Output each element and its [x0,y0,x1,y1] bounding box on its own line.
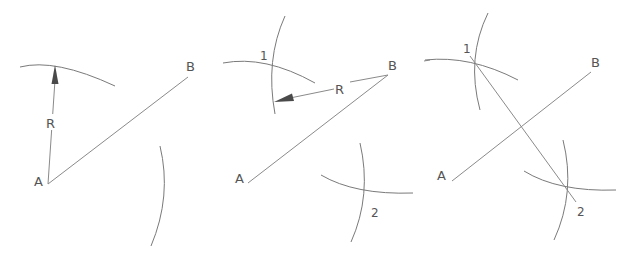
point-b-label: B [186,59,195,74]
panel-step-2: R 1 2 A B [223,16,430,242]
arc-1-from-b [475,13,488,110]
point-a-label: A [34,174,43,189]
radius-label: R [46,116,55,131]
arc-2-from-b [554,140,568,240]
intersection-2-label: 2 [371,206,379,220]
radius-line [48,80,55,184]
radius-arrowhead-icon [274,94,294,103]
panel-step-3: 1 2 A B [425,13,616,240]
segment-ab [48,77,188,184]
intersection-1-label: 1 [260,49,268,63]
intersection-1-label: 1 [463,42,471,56]
point-a-label: A [437,168,446,183]
arc-2-from-a [321,175,413,193]
segment-ab [248,75,388,183]
radius-line-upper [350,75,388,82]
intersection-2-label: 2 [577,205,585,219]
arc-1-from-a [425,59,518,80]
arc-2-from-a [524,171,616,190]
panel-step-1: R A B [20,59,195,246]
point-a-label: A [235,171,244,186]
point-b-label: B [591,55,600,70]
perpendicular-bisector [470,56,576,202]
arc-1-from-a [223,61,315,83]
arc-from-a-top [20,65,115,86]
radius-line-lower [290,89,334,98]
arc-from-a-right [151,146,164,246]
radius-label: R [335,82,344,97]
arc-2-from-b [351,143,364,242]
point-b-label: B [388,58,397,73]
radius-arrowhead-icon [52,65,59,84]
bisector-construction-diagram: R A B R 1 2 A B 1 2 A B [0,0,638,263]
